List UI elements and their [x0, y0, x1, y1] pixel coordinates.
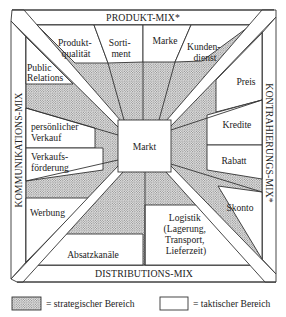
- label-kredite: Kredite: [223, 119, 252, 130]
- label-rabatt: Rabatt: [221, 155, 246, 166]
- label-logistik: Logistik (Lagerung, Transport, Lieferzei…: [164, 212, 209, 257]
- legend-label-strategic: = strategischer Bereich: [46, 298, 135, 309]
- legend-swatch-tactical: [160, 297, 188, 310]
- legend: = strategischer Bereich = taktischer Ber…: [12, 297, 271, 310]
- label-verkaufsfoerderung: Verkaufs- förderung: [31, 151, 71, 173]
- label-skonto: Skonto: [226, 202, 253, 213]
- label-marke: Marke: [152, 35, 177, 46]
- markt-label: Markt: [133, 141, 157, 152]
- label-werbung: Werbung: [30, 207, 65, 218]
- label-absatzkanaele: Absatzkanäle: [67, 249, 119, 260]
- band-produkt-mix-label: PRODUKT-MIX*: [106, 12, 180, 23]
- label-preis: Preis: [236, 76, 255, 87]
- legend-label-tactical: = taktischer Bereich: [193, 298, 271, 309]
- legend-swatch-strategic: [12, 297, 41, 310]
- band-distributions-mix-label: DISTRIBUTIONS-MIX: [95, 268, 193, 279]
- label-sortiment: Sorti- ment: [109, 37, 133, 59]
- label-produktqualitaet: Produkt- qualität: [58, 37, 94, 59]
- band-kommunikations-mix-label: KOMMUNIKATIONS-MIX: [13, 92, 24, 207]
- marketing-mix-diagram: PRODUKT-MIX* KOMMUNIKATIONS-MIX KONTRAHI…: [0, 0, 286, 317]
- band-kontrahierungs-mix-label: KONTRAHIERUNGS-MIX*: [264, 83, 275, 202]
